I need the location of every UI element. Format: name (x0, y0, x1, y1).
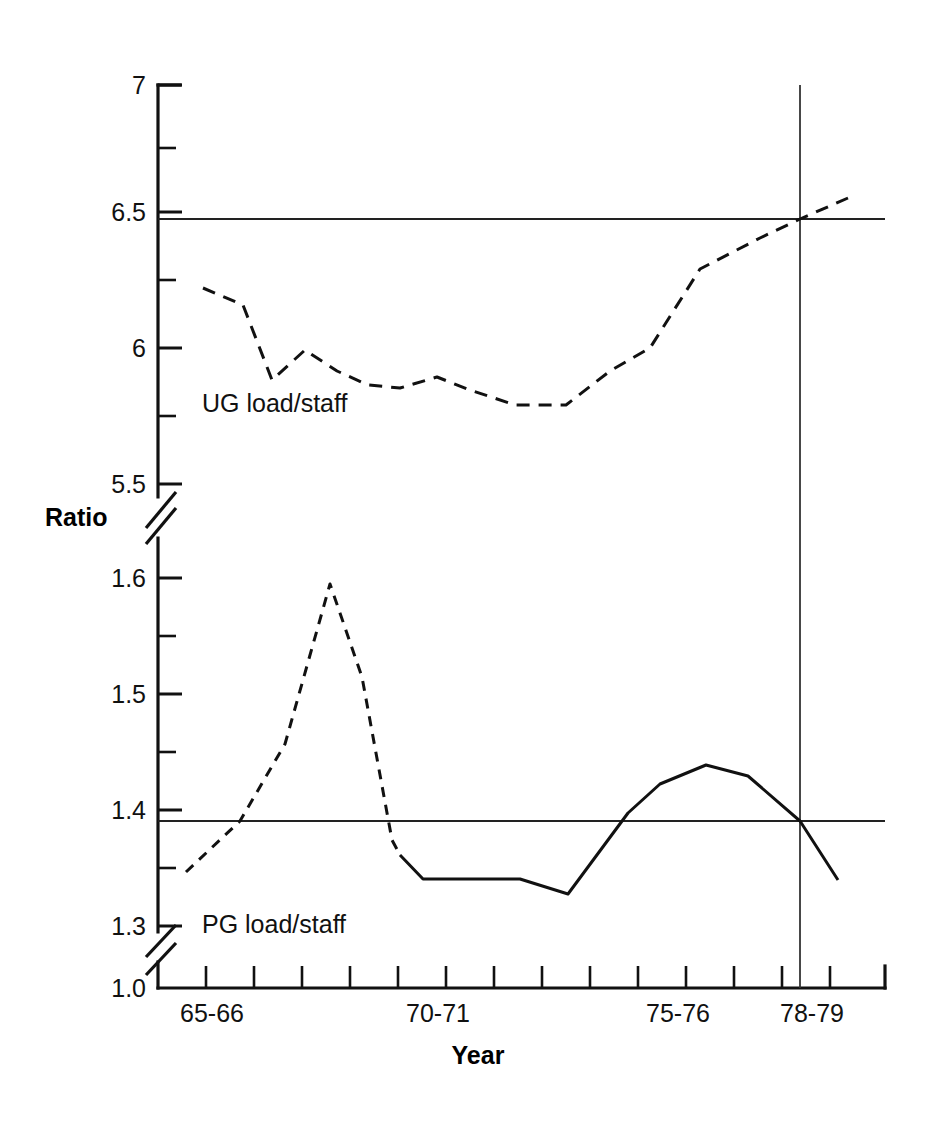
line-chart: 7 6.5 6 5.5 1.6 1.5 1.4 1.3 1.0 Ratio (0, 0, 935, 1122)
series-label-pg: PG load/staff (202, 910, 346, 938)
y-tick-label-1.6: 1.6 (111, 564, 146, 592)
x-tick-label-65-66: 65-66 (180, 999, 244, 1027)
y-tick-label-1.0: 1.0 (111, 974, 146, 1002)
y-tick-label-5.5: 5.5 (111, 470, 146, 498)
y-tick-label-6: 6 (132, 334, 146, 362)
y-tick-label-6.5: 6.5 (111, 198, 146, 226)
y-tick-label-7: 7 (132, 71, 146, 99)
y-tick-label-1.3: 1.3 (111, 912, 146, 940)
y-tick-label-1.4: 1.4 (111, 796, 146, 824)
series-ug-load-staff (203, 198, 848, 405)
x-axis-title: Year (452, 1041, 505, 1069)
chart-figure: 7 6.5 6 5.5 1.6 1.5 1.4 1.3 1.0 Ratio (0, 0, 935, 1122)
x-tick-label-75-76: 75-76 (646, 999, 710, 1027)
y-axis-title: Ratio (45, 503, 108, 531)
y-tick-label-1.5: 1.5 (111, 680, 146, 708)
series-pg-load-staff-solid (400, 765, 838, 894)
series-pg-load-staff-dashed (186, 584, 400, 872)
x-axis: 65-66 70-71 75-76 78-79 Year (158, 966, 885, 1069)
x-tick-label-78-79: 78-79 (780, 999, 844, 1027)
y-axis-break-upper (146, 492, 176, 544)
y-axis: 7 6.5 6 5.5 1.6 1.5 1.4 1.3 1.0 Ratio (45, 71, 182, 1002)
x-tick-label-70-71: 70-71 (406, 999, 470, 1027)
series-label-ug: UG load/staff (202, 389, 348, 417)
y-axis-break-lower (146, 925, 176, 975)
